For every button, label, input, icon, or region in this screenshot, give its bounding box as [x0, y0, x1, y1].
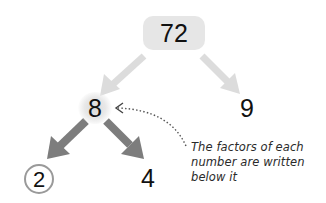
annotation-line-3: below it	[191, 170, 323, 185]
edge-8-to-2	[47, 121, 86, 159]
edge-72-to-8	[100, 56, 144, 96]
root-node-72: 72	[143, 21, 205, 46]
node-8: 8	[84, 96, 106, 121]
edge-72-to-9	[202, 56, 240, 94]
edge-8-to-4	[106, 121, 144, 159]
factor-tree-diagram: 72 8 9 2 4 The factors of each number ar…	[0, 0, 326, 203]
annotation-line-2: number are written	[191, 155, 323, 170]
node-4: 4	[137, 166, 159, 191]
annotation-text: The factors of each number are written b…	[191, 140, 323, 185]
annotation-line-1: The factors of each	[191, 140, 323, 155]
node-9: 9	[236, 96, 258, 121]
node-2-circled: 2	[24, 164, 54, 194]
